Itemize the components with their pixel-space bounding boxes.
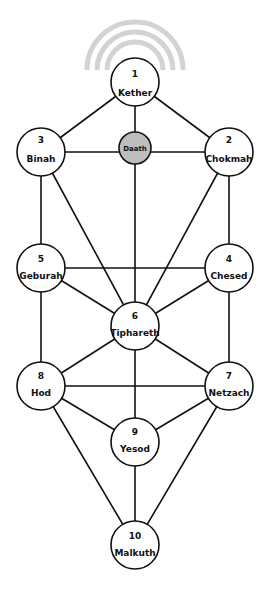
svg-text:1: 1: [132, 69, 138, 79]
node-binah: 3 Binah: [17, 128, 65, 176]
svg-text:3: 3: [38, 135, 44, 145]
svg-text:7: 7: [226, 371, 232, 381]
svg-text:2: 2: [226, 135, 232, 145]
svg-text:9: 9: [132, 427, 138, 437]
svg-text:Binah: Binah: [27, 154, 56, 164]
node-chokmah: 2 Chokmah: [205, 128, 253, 176]
svg-text:10: 10: [129, 531, 142, 541]
node-netzach: 7 Netzach: [205, 362, 253, 410]
svg-text:Kether: Kether: [118, 88, 153, 98]
svg-text:Hod: Hod: [31, 388, 51, 398]
svg-text:Malkuth: Malkuth: [114, 548, 155, 558]
node-geburah: 5 Geburah: [17, 244, 65, 292]
svg-text:Tiphareth: Tiphareth: [110, 328, 159, 338]
svg-text:Netzach: Netzach: [209, 388, 250, 398]
svg-text:8: 8: [38, 371, 44, 381]
svg-text:Chesed: Chesed: [210, 271, 247, 281]
svg-text:Yesod: Yesod: [119, 444, 150, 454]
svg-text:5: 5: [38, 254, 44, 264]
svg-text:Geburah: Geburah: [19, 271, 62, 281]
node-malkuth: 10 Malkuth: [111, 521, 159, 569]
node-hod: 8 Hod: [17, 362, 65, 410]
tree-of-life-diagram: 1 Kether 2 Chokmah 3 Binah Daath 4 Chese…: [0, 0, 270, 595]
svg-text:4: 4: [226, 254, 232, 264]
node-daath: Daath: [119, 132, 151, 164]
svg-text:Daath: Daath: [123, 145, 147, 153]
node-tiphareth: 6 Tiphareth: [110, 302, 159, 350]
node-chesed: 4 Chesed: [205, 244, 253, 292]
svg-text:Chokmah: Chokmah: [205, 154, 252, 164]
svg-text:6: 6: [132, 311, 138, 321]
node-kether: 1 Kether: [111, 58, 159, 106]
node-yesod: 9 Yesod: [111, 418, 159, 466]
